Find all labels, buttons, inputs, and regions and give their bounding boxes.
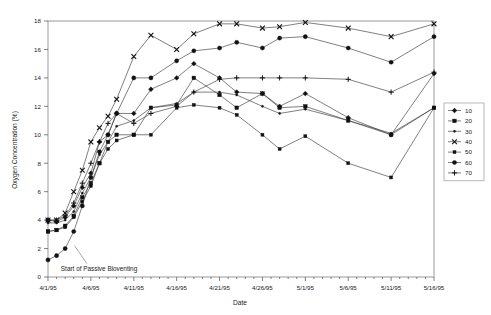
legend-label-20: 20 (465, 117, 472, 124)
data-point-50 (149, 133, 152, 136)
y-tick-label: 12 (34, 103, 41, 110)
data-point-30 (261, 105, 263, 107)
legend-label-70: 70 (465, 169, 472, 176)
data-point-60 (217, 46, 221, 50)
data-point-60 (89, 175, 93, 179)
data-point-40 (97, 125, 102, 130)
data-point-60 (235, 40, 239, 44)
data-point-50 (55, 229, 58, 232)
x-tick-label: 4/26/95 (252, 284, 273, 291)
y-tick-label: 0 (38, 273, 42, 280)
data-point-60 (432, 35, 436, 39)
data-point-50 (107, 148, 110, 151)
data-point-70 (389, 90, 394, 95)
data-point-30 (107, 141, 109, 143)
data-point-40 (80, 168, 85, 173)
data-point-20 (192, 76, 196, 80)
data-point-40 (131, 54, 136, 59)
data-point-50 (47, 230, 50, 233)
data-point-20 (261, 92, 265, 96)
data-point-30 (218, 91, 220, 93)
x-tick-label: 4/6/95 (82, 284, 100, 291)
data-point-50 (347, 162, 350, 165)
legend-label-40: 40 (465, 138, 472, 145)
plot-frame (48, 21, 434, 277)
data-point-40 (71, 189, 76, 194)
x-tick-label: 5/1/95 (297, 284, 315, 291)
data-point-60 (72, 229, 76, 233)
data-point-50 (433, 106, 436, 109)
x-tick-label: 4/16/95 (166, 284, 187, 291)
series-50 (47, 103, 436, 233)
data-point-60 (63, 246, 67, 250)
data-point-30 (347, 119, 349, 121)
data-point-30 (116, 125, 118, 127)
data-point-70 (234, 75, 239, 80)
data-point-30 (64, 219, 66, 221)
data-point-70 (148, 111, 153, 116)
data-point-60 (278, 36, 282, 40)
data-point-60 (80, 204, 84, 208)
data-point-50 (115, 139, 118, 142)
data-point-50 (261, 133, 264, 136)
legend-marker-30 (453, 130, 455, 132)
y-tick-label: 18 (34, 17, 41, 24)
x-axis-tick-labels: 4/1/954/6/954/11/954/16/954/21/954/26/95… (39, 284, 444, 291)
data-point-20 (278, 106, 282, 110)
data-point-50 (218, 106, 221, 109)
series-line-30 (48, 92, 434, 223)
data-point-50 (72, 216, 75, 219)
data-point-50 (64, 226, 67, 229)
data-point-70 (88, 161, 93, 166)
x-tick-label: 4/1/95 (39, 284, 57, 291)
data-point-60 (97, 150, 101, 154)
data-point-60 (46, 258, 50, 262)
legend-label-10: 10 (465, 107, 472, 114)
data-point-50 (89, 184, 92, 187)
y-tick-label: 8 (38, 160, 42, 167)
data-point-60 (260, 46, 264, 50)
data-point-40 (114, 97, 119, 102)
y-tick-label: 2 (38, 245, 42, 252)
data-point-50 (98, 162, 101, 165)
data-point-40 (88, 139, 93, 144)
legend: 10203040506070 (444, 103, 484, 181)
data-point-60 (54, 254, 58, 258)
data-point-30 (390, 132, 392, 134)
data-point-10 (131, 111, 136, 116)
y-tick-label: 16 (34, 46, 41, 53)
data-point-60 (303, 35, 307, 39)
legend-marker-60 (452, 160, 456, 164)
series-line-40 (48, 22, 434, 220)
data-point-70 (131, 121, 136, 126)
data-point-20 (115, 133, 119, 137)
data-point-10 (149, 87, 154, 92)
chart-annotations: Start of Passive Bioventing (61, 246, 138, 273)
data-point-50 (192, 103, 195, 106)
x-tick-label: 4/11/95 (124, 284, 145, 291)
legend-marker-50 (453, 151, 456, 154)
annotation-start-of-passive-bioventing: Start of Passive Bioventing (61, 265, 138, 273)
x-axis-title: Date (233, 299, 247, 306)
data-series-group (45, 20, 436, 262)
data-point-30 (73, 210, 75, 212)
annotation-leader-line (75, 246, 87, 264)
data-point-50 (390, 176, 393, 179)
data-point-20 (218, 93, 222, 97)
data-point-20 (304, 105, 308, 109)
data-point-30 (279, 112, 281, 114)
data-point-70 (303, 75, 308, 80)
data-point-50 (132, 133, 135, 136)
y-axis-title: Oxygen Concentration (%) (11, 111, 19, 189)
data-point-20 (235, 106, 239, 110)
data-point-60 (389, 60, 393, 64)
data-point-30 (150, 107, 152, 109)
data-point-40 (174, 47, 179, 52)
y-tick-label: 14 (34, 74, 41, 81)
series-60 (46, 35, 436, 262)
data-point-30 (81, 192, 83, 194)
data-point-50 (235, 113, 238, 116)
y-tick-label: 4 (38, 216, 42, 223)
y-tick-label: 10 (34, 131, 41, 138)
x-tick-label: 5/6/95 (340, 284, 358, 291)
